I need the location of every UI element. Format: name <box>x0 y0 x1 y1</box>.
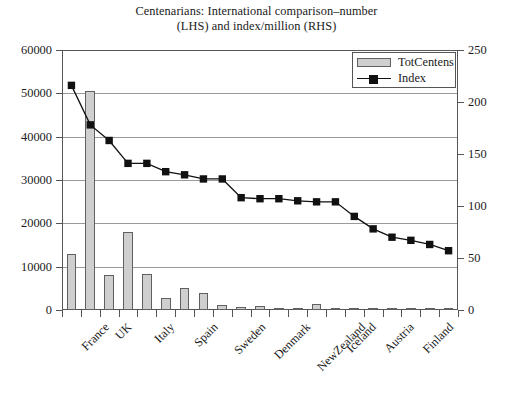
y-tick-mark-right <box>458 154 464 155</box>
gridline <box>63 93 457 94</box>
y-tick-label-left: 30000 <box>0 173 52 188</box>
x-tick-mark <box>326 310 327 317</box>
x-tick-mark <box>288 310 289 317</box>
y-tick-label-left: 10000 <box>0 259 52 274</box>
chart-title: Centenarians: International comparison–n… <box>0 4 513 34</box>
legend-entry-index: Index <box>357 70 426 86</box>
x-tick-mark <box>62 310 63 317</box>
x-tick-label: UK <box>112 320 135 343</box>
x-tick-mark <box>401 310 402 317</box>
x-tick-mark <box>137 310 138 317</box>
y-tick-label-left: 0 <box>0 303 52 318</box>
y-tick-mark-left <box>56 93 62 94</box>
y-tick-label-right: 100 <box>468 199 487 214</box>
x-tick-mark <box>364 310 365 317</box>
x-tick-mark <box>269 310 270 317</box>
x-tick-mark <box>213 310 214 317</box>
plot-top-rule <box>62 50 458 51</box>
gridline <box>63 137 457 138</box>
y-tick-mark-left <box>56 137 62 138</box>
y-tick-mark-right <box>458 206 464 207</box>
y-tick-label-left: 50000 <box>0 86 52 101</box>
chart-legend: TotCentens Index <box>352 52 456 88</box>
y-tick-label-right: 250 <box>468 43 487 58</box>
gridline <box>63 180 457 181</box>
x-tick-mark <box>420 310 421 317</box>
y-tick-mark-right <box>458 258 464 259</box>
x-tick-label: Austria <box>382 320 418 356</box>
y-tick-mark-left <box>56 180 62 181</box>
y-tick-label-left: 60000 <box>0 43 52 58</box>
x-tick-label: Sweden <box>232 320 270 358</box>
y-tick-label-right: 0 <box>468 303 474 318</box>
plot-area <box>62 50 458 310</box>
legend-line-swatch-icon <box>357 74 391 83</box>
chart-title-line-2: (LHS) and index/million (RHS) <box>0 19 513 34</box>
x-tick-mark <box>156 310 157 317</box>
x-tick-mark <box>119 310 120 317</box>
legend-bar-swatch-icon <box>357 58 391 67</box>
chart-title-line-1: Centenarians: International comparison–n… <box>0 4 513 19</box>
x-tick-mark <box>100 310 101 317</box>
x-tick-label: Denmark <box>271 320 314 363</box>
x-tick-label: Spain <box>191 320 221 350</box>
x-tick-mark <box>307 310 308 317</box>
y-tick-label-left: 20000 <box>0 216 52 231</box>
x-tick-mark <box>345 310 346 317</box>
legend-label-totcentens: TotCentens <box>398 55 454 70</box>
legend-label-index: Index <box>398 71 426 86</box>
x-tick-mark <box>439 310 440 317</box>
y-tick-mark-left <box>56 50 62 51</box>
x-tick-label: France <box>79 320 113 354</box>
y-tick-label-left: 40000 <box>0 129 52 144</box>
y-tick-mark-left <box>56 223 62 224</box>
x-tick-label: Iceland <box>344 320 380 356</box>
chart-container: Centenarians: International comparison–n… <box>0 0 513 398</box>
x-tick-mark <box>458 310 459 317</box>
x-tick-label: Finland <box>420 320 457 357</box>
x-tick-label: Italy <box>151 320 177 346</box>
legend-entry-totcentens: TotCentens <box>357 54 454 70</box>
y-tick-mark-right <box>458 50 464 51</box>
x-tick-mark <box>232 310 233 317</box>
y-tick-label-right: 200 <box>468 95 487 110</box>
x-tick-mark <box>175 310 176 317</box>
x-tick-mark <box>81 310 82 317</box>
gridline <box>63 267 457 268</box>
x-tick-mark <box>194 310 195 317</box>
x-tick-mark <box>383 310 384 317</box>
gridline <box>63 223 457 224</box>
y-tick-label-right: 150 <box>468 147 487 162</box>
y-tick-label-right: 50 <box>468 251 480 266</box>
y-tick-mark-right <box>458 102 464 103</box>
x-tick-mark <box>251 310 252 317</box>
y-tick-mark-left <box>56 267 62 268</box>
